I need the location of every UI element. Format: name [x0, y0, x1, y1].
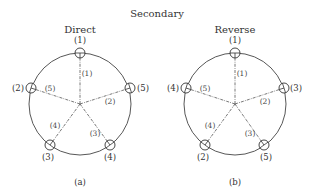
winding-label: (2): [105, 97, 116, 106]
terminal-node: [105, 140, 115, 150]
figure-title: Secondary: [130, 8, 184, 19]
terminal-label: (5): [260, 152, 272, 162]
terminal-label: (1): [229, 35, 241, 45]
phase-sequence-diagram: Secondary Direct(1)(1)(5)(2)(4)(3)(3)(4)…: [0, 0, 313, 192]
panel-a: Direct(1)(1)(5)(2)(4)(3)(3)(4)(2)(5)(a): [12, 24, 149, 187]
winding-spoke: [235, 104, 264, 145]
terminal-label: (2): [12, 83, 24, 93]
winding-spoke: [186, 88, 235, 104]
winding-label: (4): [205, 121, 216, 130]
winding-spoke: [31, 88, 80, 104]
terminal-label: (5): [137, 83, 149, 93]
terminal-label: (1): [74, 35, 86, 45]
terminal-node: [45, 140, 55, 150]
panel-heading: Direct: [64, 24, 96, 35]
panel-caption: (b): [229, 177, 241, 187]
winding-label: (1): [82, 69, 93, 78]
terminal-label: (4): [104, 152, 116, 162]
terminal-node: [279, 83, 289, 93]
winding-label: (5): [45, 84, 56, 93]
winding-spoke: [80, 104, 110, 145]
terminal-node: [259, 140, 269, 150]
winding-label: (2): [260, 97, 271, 106]
winding-label: (5): [200, 84, 211, 93]
winding-label: (1): [237, 69, 248, 78]
terminal-label: (4): [167, 83, 179, 93]
terminal-node: [200, 140, 210, 150]
panel-heading: Reverse: [215, 24, 256, 35]
terminal-node: [125, 83, 135, 93]
terminal-label: (3): [290, 83, 302, 93]
terminal-label: (3): [42, 152, 54, 162]
panel-b: Reverse(1)(1)(3)(2)(5)(3)(2)(4)(4)(5)(b): [167, 24, 302, 187]
winding-label: (3): [245, 129, 256, 138]
terminal-node: [181, 83, 191, 93]
terminal-node: [26, 83, 36, 93]
terminal-node: [230, 48, 240, 58]
terminal-label: (2): [197, 152, 209, 162]
winding-label: (4): [50, 121, 61, 130]
terminal-node: [75, 48, 85, 58]
winding-label: (3): [90, 129, 101, 138]
panel-caption: (a): [74, 177, 86, 187]
